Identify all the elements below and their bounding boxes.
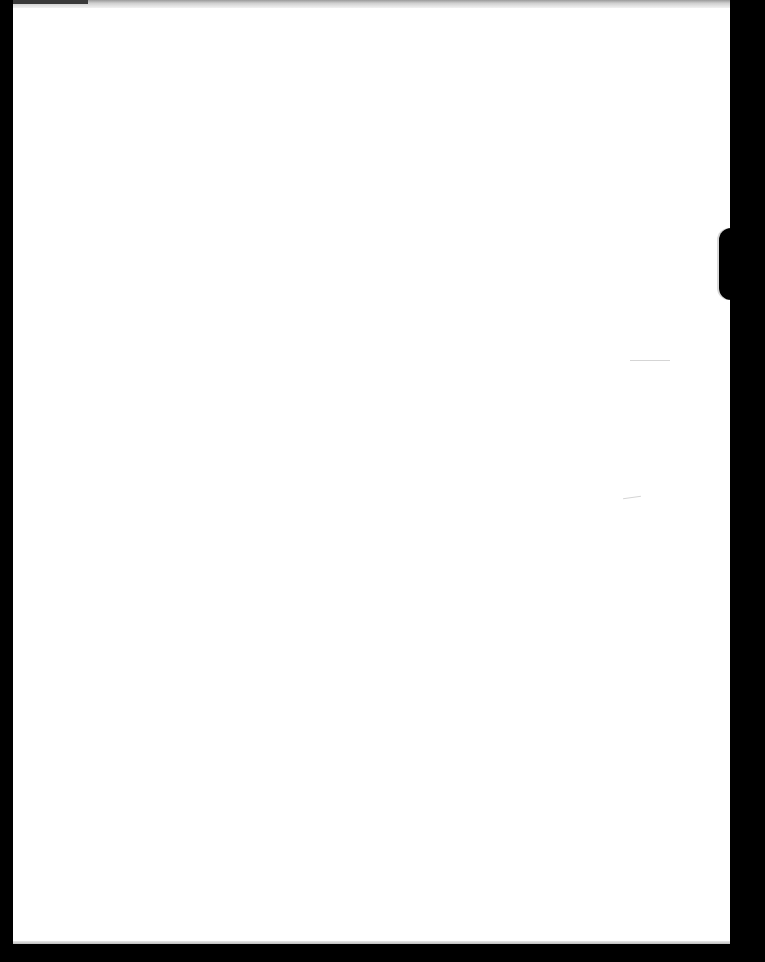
page-top-edge [13, 0, 730, 8]
page-top-shadow [13, 0, 88, 4]
scan-artifact-curve [623, 496, 641, 499]
scanned-page [13, 0, 730, 944]
page-bottom-edge [13, 941, 730, 944]
scan-artifact-line [630, 360, 670, 361]
page-tab-notch [719, 228, 731, 300]
